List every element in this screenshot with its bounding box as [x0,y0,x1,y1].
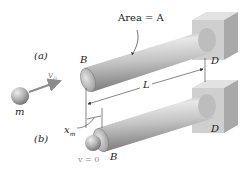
area-leader-line [132,30,138,55]
length-dimension-right [152,69,203,84]
end-b-label-top: B [80,55,87,65]
mass-sphere-contact [85,135,101,151]
xm-leader-line [77,118,94,128]
area-label: Area = A [118,13,164,23]
end-d-label-top: D [211,56,219,66]
end-b-label-bottom: B [110,152,117,162]
xm-dimension [87,116,101,119]
diagram-graphics [0,0,245,171]
final-velocity-label: v = 0 [78,156,99,164]
end-d-label-bottom: D [211,124,219,134]
length-label: L [143,80,150,90]
part-a-label: (a) [34,51,48,61]
mass-label: m [15,107,24,117]
max-deflection-label: xm [64,125,75,137]
impact-rod-diagram: Area = A (a) B D L v0 m (b) xm B D v = 0 [0,0,245,171]
initial-velocity-label: v0 [48,71,57,82]
velocity-arrow [29,81,60,92]
part-b-label: (b) [34,134,48,144]
mass-sphere [11,87,29,105]
